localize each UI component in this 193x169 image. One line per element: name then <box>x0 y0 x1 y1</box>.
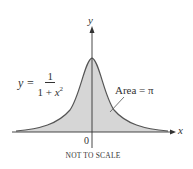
function-fraction: 1 1 + x2 <box>37 70 63 98</box>
x-axis-label: x <box>178 124 183 136</box>
function-lhs: y = <box>18 76 34 91</box>
fraction-numerator: 1 <box>45 70 55 83</box>
y-axis-label: y <box>88 14 93 26</box>
function-label: y = 1 1 + x2 <box>18 70 63 98</box>
x-axis-arrow-icon <box>170 130 176 135</box>
denominator-exp: 2 <box>60 85 64 93</box>
caption: NOT TO SCALE <box>0 151 186 160</box>
area-label: Area = π <box>115 84 154 96</box>
y-axis-arrow-icon <box>90 26 95 33</box>
fraction-denominator: 1 + x2 <box>37 83 63 98</box>
area-leader-line <box>110 97 124 112</box>
denominator-prefix: 1 + <box>37 86 54 98</box>
origin-label: 0 <box>84 135 89 146</box>
